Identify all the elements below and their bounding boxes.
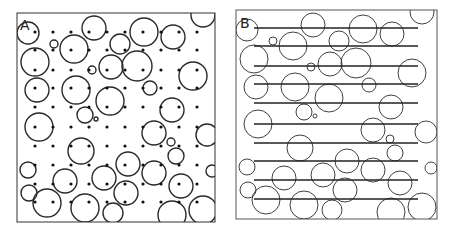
circle — [287, 135, 313, 161]
grid-point — [105, 163, 108, 166]
circle — [94, 117, 98, 121]
grid-point — [123, 86, 126, 89]
circle — [189, 196, 217, 224]
circle — [361, 118, 385, 142]
grid-point — [105, 48, 108, 51]
grid-point — [33, 163, 36, 166]
grid-point — [159, 48, 162, 51]
circle — [160, 98, 184, 122]
grid-point — [195, 68, 198, 71]
grid-point — [123, 48, 126, 51]
circle — [50, 40, 58, 48]
grid-point — [69, 68, 72, 71]
grid-point — [141, 182, 144, 185]
circle — [377, 198, 405, 226]
grid-point — [69, 48, 72, 51]
circle — [301, 13, 325, 37]
circle — [341, 48, 371, 78]
circle — [425, 162, 437, 174]
grid-point — [141, 105, 144, 108]
grid-point — [195, 48, 198, 51]
grid-point — [33, 144, 36, 147]
circle — [388, 171, 412, 195]
circle — [71, 194, 99, 222]
grid-point — [105, 105, 108, 108]
circle — [99, 55, 123, 79]
circle — [158, 201, 186, 229]
grid-point — [123, 30, 126, 33]
grid-point — [159, 163, 162, 166]
circle — [62, 76, 90, 104]
grid-point — [51, 30, 54, 33]
circle — [161, 25, 185, 49]
grid-point — [159, 200, 162, 203]
grid-point — [195, 105, 198, 108]
grid-point — [69, 125, 72, 128]
panel-a-circles — [17, 3, 218, 229]
circle — [296, 104, 312, 120]
circle — [110, 34, 130, 54]
circle — [82, 16, 106, 40]
circle — [410, 0, 434, 24]
circle — [398, 59, 426, 87]
circle — [281, 73, 309, 101]
grid-point — [69, 105, 72, 108]
circle — [252, 186, 280, 214]
grid-point — [87, 48, 90, 51]
grid-point — [177, 68, 180, 71]
grid-point — [87, 30, 90, 33]
grid-point — [141, 30, 144, 33]
circle — [25, 78, 49, 102]
circle — [191, 3, 215, 27]
grid-point — [159, 86, 162, 89]
grid-point — [141, 200, 144, 203]
grid-point — [177, 125, 180, 128]
grid-point — [195, 200, 198, 203]
circle — [362, 78, 376, 92]
grid-point — [195, 182, 198, 185]
grid-point — [69, 182, 72, 185]
circle — [313, 114, 317, 118]
grid-point — [51, 105, 54, 108]
grid-point — [141, 68, 144, 71]
grid-point — [105, 125, 108, 128]
panel-a: A — [17, 3, 218, 229]
grid-point — [87, 200, 90, 203]
grid-point — [195, 86, 198, 89]
grid-point — [33, 86, 36, 89]
grid-point — [177, 144, 180, 147]
figure: A B — [0, 0, 452, 232]
panel-b-frame — [236, 10, 437, 219]
circle — [272, 166, 296, 190]
circle — [60, 35, 88, 63]
circle — [322, 200, 342, 220]
grid-point — [105, 200, 108, 203]
circle — [53, 169, 77, 193]
panel-b-circles — [236, 0, 437, 226]
grid-point — [33, 200, 36, 203]
grid-point — [33, 30, 36, 33]
circle — [206, 165, 218, 177]
circle — [244, 75, 268, 99]
circle — [21, 48, 49, 76]
circle — [307, 63, 315, 71]
circle — [143, 81, 157, 95]
grid-point — [177, 86, 180, 89]
grid-point — [33, 125, 36, 128]
grid-point — [177, 30, 180, 33]
grid-point — [33, 68, 36, 71]
circle — [408, 193, 436, 221]
grid-point — [69, 144, 72, 147]
panel-b-label: B — [240, 15, 250, 31]
grid-point — [87, 86, 90, 89]
circle — [168, 148, 184, 164]
circle — [386, 135, 394, 143]
grid-point — [51, 68, 54, 71]
circle — [311, 163, 335, 187]
grid-point — [177, 48, 180, 51]
circle — [167, 138, 175, 146]
grid-point — [141, 48, 144, 51]
panel-a-frame — [17, 13, 215, 222]
grid-point — [51, 182, 54, 185]
grid-point — [195, 163, 198, 166]
